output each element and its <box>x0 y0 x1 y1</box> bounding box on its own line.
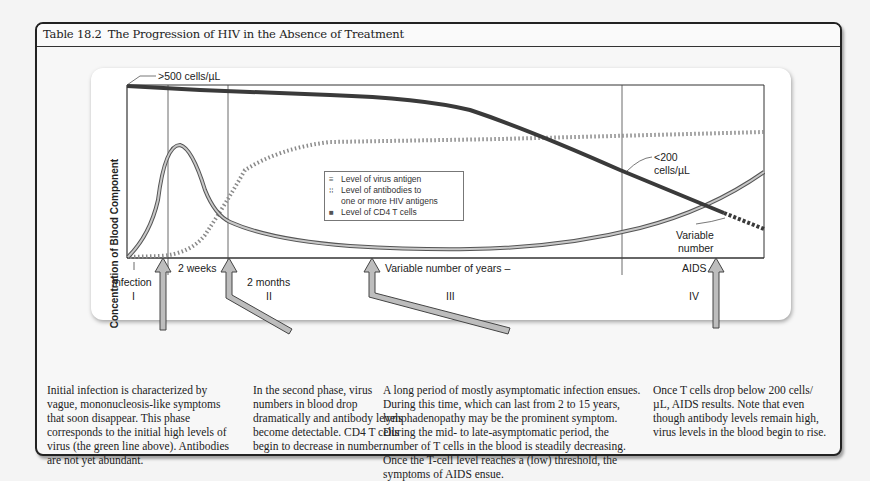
top-cd4-label: >500 cells/µL <box>158 70 220 82</box>
variable-label-2: number <box>678 242 714 254</box>
x-tick-aids: AIDS <box>682 262 707 274</box>
cd4-threshold-leader <box>627 157 652 171</box>
phase-label-4: IV <box>689 290 699 302</box>
description-phase-4: Once T cells drop below 200 cells/µL, AI… <box>653 383 828 439</box>
antibody-swatch-icon: ⁞⁞ <box>329 185 337 196</box>
phase-label-2: II <box>266 290 272 302</box>
description-phase-3: A long period of mostly asymptomatic inf… <box>383 383 645 481</box>
description-phase-2: In the second phase, virus numbers in bl… <box>253 383 403 453</box>
top-label-leader <box>127 76 156 85</box>
x-tick-variable-years: Variable number of years – <box>385 262 510 274</box>
phase-label-1: I <box>132 290 135 302</box>
legend-item-cd4: ■ Level of CD4 T cells <box>329 207 459 218</box>
chart-legend: ≡ Level of virus antigen ⁞⁞ Level of ant… <box>324 171 464 221</box>
variable-leader <box>696 218 725 224</box>
x-tick-2-weeks: 2 weeks <box>178 262 217 274</box>
legend-item-antibodies: ⁞⁞ Level of antibodies to <box>329 185 459 196</box>
cd4-swatch-icon: ■ <box>329 207 337 218</box>
x-tick-infection: Infection <box>112 276 152 288</box>
cd4-variable-tail <box>724 213 764 229</box>
arrow-phase-2 <box>221 258 292 334</box>
variable-label-1: Variable <box>676 229 714 241</box>
cd4-threshold-label-2: cells/µL <box>654 164 690 176</box>
arrow-phase-1 <box>155 258 171 330</box>
legend-item-virus: ≡ Level of virus antigen <box>329 174 459 185</box>
cd4-threshold-label-1: <200 <box>654 151 678 163</box>
legend-item-antibodies-cont: one or more HIV antigens <box>329 196 459 207</box>
description-phase-1: Initial infection is characterized by va… <box>47 383 237 467</box>
virus-swatch-icon: ≡ <box>329 174 337 185</box>
arrow-phase-4 <box>708 258 724 328</box>
phase-label-3: III <box>446 290 455 302</box>
x-tick-2-months: 2 months <box>247 276 290 288</box>
